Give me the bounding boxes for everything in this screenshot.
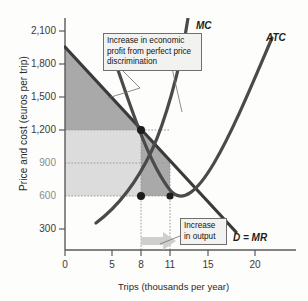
chart-figure: Price and cost (euros per trip) 2,100 1,… [0,0,308,301]
y-tick-300: 300 [8,223,56,234]
y-tick-1500: 1,500 [8,91,56,102]
x-tick-8: 8 [131,259,151,270]
x-tick-20: 20 [245,259,265,270]
x-tick-0: 0 [55,259,75,270]
y-tick-600: 600 [8,190,56,201]
x-tick-15: 15 [198,259,218,270]
point-mc-at-8 [137,192,145,200]
x-axis-label: Trips (thousands per year) [118,281,229,292]
point-price-1200 [137,126,145,134]
increase-in-output-callout: Increase in output [180,218,227,245]
curve-label-mc: MC [196,20,212,31]
curve-label-d-mr: D = MR [233,232,267,243]
x-tick-11: 11 [160,259,180,270]
y-tick-1200: 1,200 [8,124,56,135]
x-tick-5: 5 [102,259,122,270]
curve-label-atc: ATC [266,32,286,43]
y-tick-1800: 1,800 [8,58,56,69]
increase-in-output-arrow [141,232,176,250]
increase-in-economic-profit-callout: Increase in economic profit from perfect… [103,33,202,71]
y-tick-900: 900 [8,157,56,168]
y-tick-2100: 2,100 [8,25,56,36]
point-efficient-output [166,192,173,199]
